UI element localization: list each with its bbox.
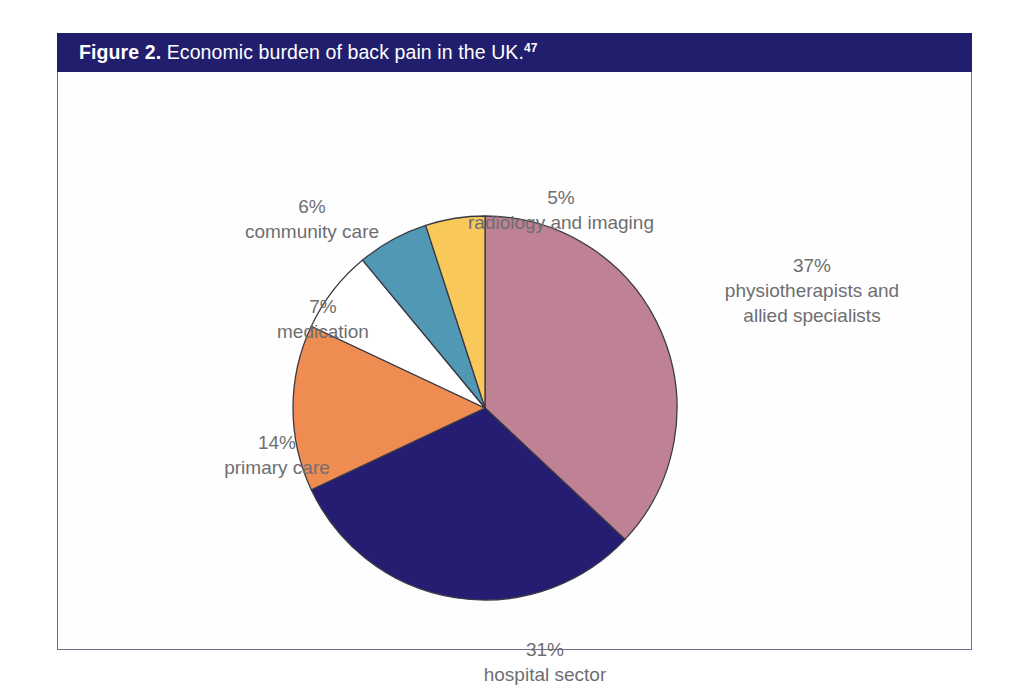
slice-name-medication: medication [243, 319, 403, 344]
figure-number: Figure 2. [79, 41, 161, 63]
slice-percent-community-care: 6% [212, 194, 412, 219]
figure-caption: Economic burden of back pain in the UK. [161, 41, 524, 63]
slice-name-hospital-sector: hospital sector [455, 662, 635, 687]
slice-label-medication: 7% medication [243, 294, 403, 344]
slice-percent-physiotherapists: 37% [687, 253, 937, 278]
slice-percent-hospital-sector: 31% [455, 637, 635, 662]
figure-container: Figure 2. Economic burden of back pain i… [57, 33, 972, 650]
slice-name-physiotherapists-line2: allied specialists [687, 303, 937, 328]
slice-label-physiotherapists: 37% physiotherapists and allied speciali… [687, 253, 937, 328]
figure-reference-superscript: 47 [524, 41, 538, 55]
slice-name-primary-care: primary care [187, 455, 367, 480]
figure-header-bar: Figure 2. Economic burden of back pain i… [57, 33, 972, 72]
slice-name-community-care: community care [212, 219, 412, 244]
slice-label-radiology-imaging: 5% radiology and imaging [451, 185, 671, 235]
pie-chart-svg [57, 72, 972, 650]
pie-chart: 37% physiotherapists and allied speciali… [57, 72, 972, 650]
slice-percent-radiology-imaging: 5% [451, 185, 671, 210]
slice-label-primary-care: 14% primary care [187, 430, 367, 480]
slice-percent-medication: 7% [243, 294, 403, 319]
slice-label-hospital-sector: 31% hospital sector [455, 637, 635, 687]
slice-name-physiotherapists-line1: physiotherapists and [687, 278, 937, 303]
figure-title: Figure 2. Economic burden of back pain i… [79, 41, 538, 64]
slice-name-radiology-imaging: radiology and imaging [451, 210, 671, 235]
slice-percent-primary-care: 14% [187, 430, 367, 455]
slice-label-community-care: 6% community care [212, 194, 412, 244]
pie-slice-group [293, 216, 677, 600]
